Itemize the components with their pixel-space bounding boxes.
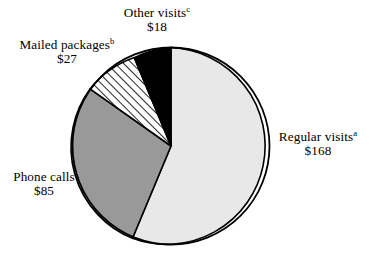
pie-label-other-visits-value: $18 <box>98 20 216 34</box>
pie-label-phone-calls: Phone calls $85 <box>2 170 86 199</box>
pie-label-regular-visits: Regular visitsa $168 <box>266 130 370 159</box>
pie-label-phone-calls-value: $85 <box>2 184 86 198</box>
footnote-marker-a: a <box>353 128 357 138</box>
pie-chart-figure: Other visitsc $18 Mailed packagesb $27 R… <box>0 0 372 260</box>
pie-label-phone-calls-name: Phone calls <box>2 170 86 184</box>
pie-label-mailed-packages-value: $27 <box>8 52 126 66</box>
pie-label-other-visits-name: Other visitsc <box>98 6 216 20</box>
pie-label-regular-visits-value: $168 <box>266 144 370 158</box>
pie-label-mailed-packages-name: Mailed packagesb <box>8 38 126 52</box>
pie-label-mailed-packages: Mailed packagesb $27 <box>8 38 126 67</box>
footnote-marker-b: b <box>110 36 114 46</box>
footnote-marker-c: c <box>186 4 190 14</box>
pie-label-other-visits: Other visitsc $18 <box>98 6 216 35</box>
pie-label-regular-visits-name: Regular visitsa <box>266 130 370 144</box>
